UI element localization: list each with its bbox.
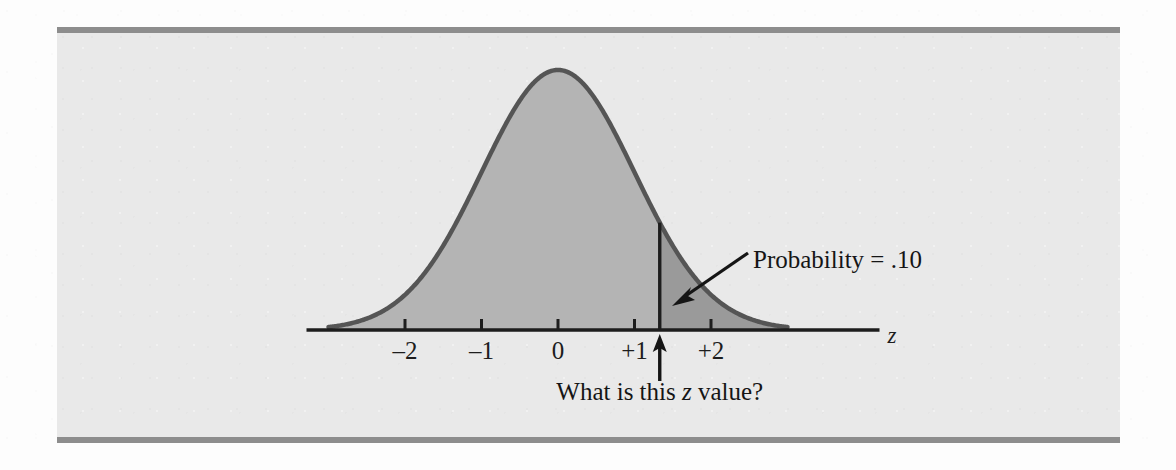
up-arrow-pointer — [653, 334, 667, 381]
x-axis-tick-labels: –2–10+1+2 — [392, 337, 725, 364]
question-caption: What is this z value? — [556, 378, 763, 405]
x-axis-tick-label: +1 — [621, 337, 648, 364]
x-axis-tick-label: –2 — [392, 337, 418, 364]
probability-callout-label: Probability = .10 — [753, 246, 922, 273]
x-axis-tick-label: +2 — [698, 337, 725, 364]
shaded-areas — [329, 60, 788, 330]
question-caption-prefix: What is this — [556, 378, 682, 405]
figure-page: –2–10+1+2 z Probability = .10 What is th… — [0, 0, 1176, 470]
question-caption-suffix: value? — [692, 378, 763, 405]
normal-distribution-chart: –2–10+1+2 z Probability = .10 What is th… — [0, 0, 1176, 470]
question-caption-variable: z — [681, 378, 692, 405]
x-axis-label: z — [887, 323, 897, 348]
body-shaded-region — [329, 60, 660, 330]
upper-tail-shaded-region — [660, 60, 788, 330]
x-axis-tick-label: 0 — [552, 337, 565, 364]
x-axis-tick-label: –1 — [468, 337, 494, 364]
